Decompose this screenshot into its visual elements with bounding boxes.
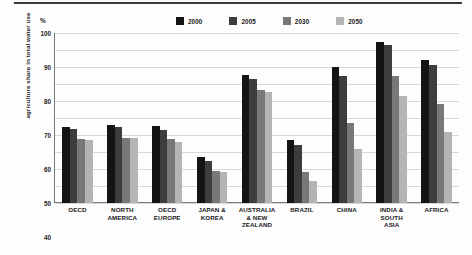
x-axis-label-line: AMERICA	[100, 214, 145, 222]
bar	[384, 45, 392, 203]
bar	[167, 139, 175, 203]
bar	[160, 130, 168, 203]
x-axis-label-line: CHINA	[324, 206, 369, 214]
x-axis-labels: OECDNORTHAMERICAOECDEUROPEJAPAN &KOREAAU…	[55, 206, 459, 229]
bar	[175, 142, 183, 203]
legend-swatch-icon	[176, 17, 184, 25]
bar	[444, 132, 452, 203]
bar-group	[279, 33, 324, 203]
x-axis-label-line: EUROPE	[145, 214, 190, 222]
x-axis-label-line: AUSTRALIA	[235, 206, 280, 214]
x-axis-label: AFRICA	[414, 206, 459, 229]
bar	[62, 127, 70, 204]
x-axis-label-line: AFRICA	[414, 206, 459, 214]
y-axis-tick-label: 90	[44, 64, 51, 71]
bar	[249, 79, 257, 203]
x-axis-label: OECDEUROPE	[145, 206, 190, 229]
bar-group	[324, 33, 369, 203]
x-axis-label: OECD	[55, 206, 100, 229]
y-axis-tick-label: 70	[44, 132, 51, 139]
bar	[205, 161, 213, 203]
legend-swatch-icon	[229, 17, 237, 25]
x-axis-label-line: BRAZIL	[279, 206, 324, 214]
bar-group	[414, 33, 459, 203]
bar	[122, 138, 130, 203]
bar	[339, 76, 347, 204]
bar	[332, 67, 340, 203]
bar	[77, 139, 85, 203]
legend-label: 2030	[295, 18, 309, 25]
x-axis-label: AUSTRALIA& NEWZEALAND	[235, 206, 280, 229]
legend-label: 2050	[348, 18, 362, 25]
bar	[85, 140, 93, 203]
top-divider	[14, 2, 462, 4]
bar	[399, 96, 407, 203]
bar	[429, 65, 437, 203]
legend-label: 2005	[241, 18, 255, 25]
y-axis-tick-label: 100	[40, 30, 51, 37]
y-axis-title: agriculture share in total water use	[24, 0, 31, 141]
bar	[302, 172, 310, 203]
y-axis-unit-label: %	[40, 17, 46, 24]
plot-area: 1009080706050403020100	[55, 33, 459, 203]
legend-item: 2030	[283, 17, 309, 25]
x-axis-label: CHINA	[324, 206, 369, 229]
x-axis-label: INDIA &SOUTHASIA	[369, 206, 414, 229]
bar	[152, 126, 160, 203]
bar	[197, 157, 205, 203]
bar	[212, 171, 220, 203]
bar	[294, 145, 302, 203]
bar-group	[145, 33, 190, 203]
x-axis-label: BRAZIL	[279, 206, 324, 229]
y-axis-tick-label: 40	[44, 234, 51, 241]
x-axis-label: JAPAN &KOREA	[190, 206, 235, 229]
bar	[309, 181, 317, 203]
x-axis-label-line: & NEW	[235, 214, 280, 222]
bar	[354, 149, 362, 203]
x-axis-label-line: INDIA &	[369, 206, 414, 214]
bar-group	[369, 33, 414, 203]
bar	[421, 60, 429, 203]
bar	[220, 172, 228, 203]
x-axis-label-line: OECD	[55, 206, 100, 214]
bar-group	[100, 33, 145, 203]
bar	[287, 140, 295, 203]
legend-item: 2050	[336, 17, 362, 25]
legend-item: 2005	[229, 17, 255, 25]
y-axis-tick-label: 60	[44, 166, 51, 173]
bar	[265, 92, 273, 203]
gridline: 0	[55, 203, 459, 204]
bar	[70, 129, 78, 203]
bar-group	[55, 33, 100, 203]
chart-page: agriculture share in total water use % 2…	[0, 0, 472, 255]
y-axis-tick-label: 50	[44, 200, 51, 207]
bar-group	[190, 33, 235, 203]
bar	[437, 104, 445, 203]
x-axis-label-line: KOREA	[190, 214, 235, 222]
legend-item: 2000	[176, 17, 202, 25]
bar-group	[235, 33, 280, 203]
bar	[257, 90, 265, 203]
x-axis-label-line: SOUTH	[369, 214, 414, 222]
legend-label: 2000	[188, 18, 202, 25]
x-axis-label-line: JAPAN &	[190, 206, 235, 214]
bar	[242, 75, 250, 203]
bar-groups	[55, 33, 459, 203]
x-axis-label-line: ASIA	[369, 221, 414, 229]
bar	[115, 127, 123, 203]
x-axis-label-line: NORTH	[100, 206, 145, 214]
bar	[130, 138, 138, 203]
legend-swatch-icon	[336, 17, 344, 25]
bar	[376, 42, 384, 204]
bar	[347, 123, 355, 203]
x-axis-label: NORTHAMERICA	[100, 206, 145, 229]
legend-swatch-icon	[283, 17, 291, 25]
x-axis-label-line: OECD	[145, 206, 190, 214]
y-axis-tick-label: 80	[44, 98, 51, 105]
chart-legend: 2000200520302050	[176, 17, 363, 25]
bar	[107, 125, 115, 203]
x-axis-label-line: ZEALAND	[235, 221, 280, 229]
bar	[392, 76, 400, 204]
